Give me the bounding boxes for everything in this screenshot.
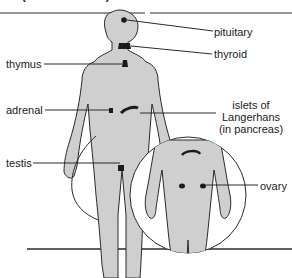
female-inset: [130, 137, 246, 278]
label-testis: testis: [6, 157, 32, 169]
label-islets-line3: (in pancreas): [214, 123, 288, 135]
label-islets-line1: islets of: [214, 99, 288, 111]
label-thyroid: thyroid: [214, 48, 247, 60]
label-islets: islets of Langerhans (in pancreas): [214, 99, 288, 135]
label-thymus: thymus: [6, 58, 41, 70]
ovary-right: [200, 184, 206, 189]
leader-thyroid: [131, 46, 212, 54]
testis-gland: [118, 165, 124, 171]
leader-pituitary: [127, 20, 213, 31]
label-adrenal: adrenal: [6, 104, 43, 116]
label-pituitary: pituitary: [214, 26, 253, 38]
thyroid-gland: [118, 43, 131, 49]
adrenal-gland: [109, 108, 113, 113]
ovary-left: [179, 184, 185, 189]
pituitary-gland: [121, 17, 127, 23]
thymus-gland: [122, 60, 128, 67]
label-ovary: ovary: [260, 180, 287, 192]
label-islets-line2: Langerhans: [214, 111, 288, 123]
endocrine-diagram: [0, 0, 292, 278]
